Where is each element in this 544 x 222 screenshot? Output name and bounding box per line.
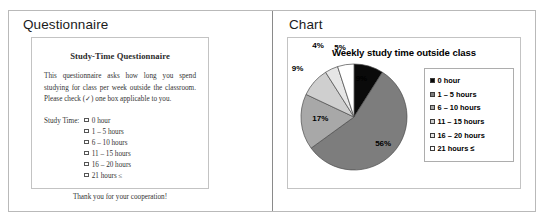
- legend-label: 16 – 20 hours: [438, 131, 485, 140]
- checkbox-icon[interactable]: [84, 151, 88, 155]
- panes-container: Questionnaire Study-Time Questionnaire T…: [9, 11, 535, 211]
- questionnaire-thanks: Thank you for your cooperation!: [32, 193, 208, 201]
- chart-plot-area: 9%56%17%9%4%5% 0 hour1 – 5 hours6 – 10 h…: [288, 58, 520, 178]
- legend-swatch-icon: [430, 78, 435, 83]
- chart-card: Weekly study time outside class 9%56%17%…: [287, 37, 521, 189]
- option-label: 0 hour: [92, 117, 111, 125]
- legend-swatch-icon: [430, 146, 435, 151]
- questionnaire-pane-title: Questionnaire: [23, 17, 108, 32]
- legend-label: 6 – 10 hours: [438, 103, 481, 112]
- legend-swatch-icon: [430, 133, 435, 138]
- option-21-hours-or-more[interactable]: 21 hours ≤: [84, 171, 131, 182]
- option-16-20-hours[interactable]: 16 – 20 hours: [84, 160, 131, 171]
- legend-label: 0 hour: [438, 76, 461, 85]
- screenshot-root: Questionnaire Study-Time Questionnaire T…: [0, 0, 544, 222]
- checkbox-icon[interactable]: [84, 129, 88, 133]
- option-6-10-hours[interactable]: 6 – 10 hours: [84, 138, 131, 149]
- study-time-options: 0 hour 1 – 5 hours 6 – 10 hours 11 – 15 …: [84, 116, 131, 182]
- chart-legend: 0 hour1 – 5 hours6 – 10 hours11 – 15 hou…: [424, 68, 514, 162]
- option-label: 1 – 5 hours: [92, 128, 124, 136]
- questionnaire-pane: Questionnaire Study-Time Questionnaire T…: [9, 11, 272, 211]
- legend-item[interactable]: 21 hours ≤: [430, 142, 509, 156]
- study-time-question: Study Time: 0 hour 1 – 5 hours 6 – 10 ho…: [32, 116, 208, 182]
- chart-pane: Chart Weekly study time outside class 9%…: [272, 11, 535, 211]
- pie-slice-label: 5%: [334, 43, 346, 52]
- legend-label: 21 hours ≤: [438, 144, 475, 153]
- legend-label: 1 – 5 hours: [438, 90, 477, 99]
- legend-item[interactable]: 0 hour: [430, 74, 509, 88]
- legend-item[interactable]: 6 – 10 hours: [430, 101, 509, 115]
- legend-label: 11 – 15 hours: [438, 117, 485, 126]
- checkbox-icon[interactable]: [84, 118, 88, 122]
- option-label: 11 – 15 hours: [92, 150, 131, 158]
- option-label: 21 hours ≤: [92, 172, 123, 180]
- pie-slice-label: 56%: [375, 139, 391, 148]
- legend-item[interactable]: 1 – 5 hours: [430, 88, 509, 102]
- questionnaire-body-text: This questionnaire asks how long you spe…: [44, 71, 196, 106]
- pie-slice-label: 9%: [356, 74, 368, 83]
- option-11-15-hours[interactable]: 11 – 15 hours: [84, 149, 131, 160]
- option-1-5-hours[interactable]: 1 – 5 hours: [84, 127, 131, 138]
- checkbox-icon[interactable]: [84, 173, 88, 177]
- outer-frame: Questionnaire Study-Time Questionnaire T…: [8, 10, 536, 212]
- option-label: 16 – 20 hours: [92, 161, 131, 169]
- option-label: 6 – 10 hours: [92, 139, 128, 147]
- questionnaire-card: Study-Time Questionnaire This questionna…: [31, 37, 209, 189]
- option-0-hour[interactable]: 0 hour: [84, 116, 131, 127]
- legend-item[interactable]: 16 – 20 hours: [430, 128, 509, 142]
- legend-swatch-icon: [430, 119, 435, 124]
- pie-slice-label: 4%: [312, 41, 324, 50]
- pie-slice-label: 17%: [312, 114, 328, 123]
- checkbox-icon[interactable]: [84, 162, 88, 166]
- legend-swatch-icon: [430, 105, 435, 110]
- study-time-label: Study Time:: [44, 116, 84, 182]
- pie-slice-label: 9%: [292, 64, 304, 73]
- checkbox-icon[interactable]: [84, 140, 88, 144]
- legend-item[interactable]: 11 – 15 hours: [430, 115, 509, 129]
- questionnaire-heading: Study-Time Questionnaire: [32, 51, 208, 61]
- chart-pane-title: Chart: [289, 17, 323, 32]
- legend-swatch-icon: [430, 92, 435, 97]
